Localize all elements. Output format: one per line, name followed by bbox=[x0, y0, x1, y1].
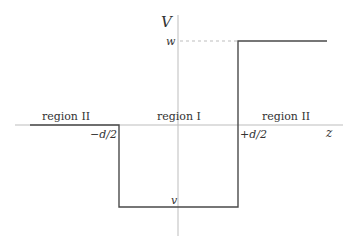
right-boundary-label: +d/2 bbox=[240, 128, 267, 141]
lower-level-label: v bbox=[171, 194, 178, 207]
upper-level-label: w bbox=[166, 35, 176, 48]
region-label-left: region II bbox=[42, 110, 90, 123]
z-axis-label: z bbox=[325, 126, 333, 140]
v-axis-label: V bbox=[161, 13, 174, 31]
region-label-right: region II bbox=[262, 110, 310, 123]
region-label-center: region I bbox=[157, 110, 201, 123]
left-boundary-label: −d/2 bbox=[90, 128, 117, 141]
potential-diagram: V z w v −d/2 +d/2 region II region I reg… bbox=[0, 0, 354, 243]
